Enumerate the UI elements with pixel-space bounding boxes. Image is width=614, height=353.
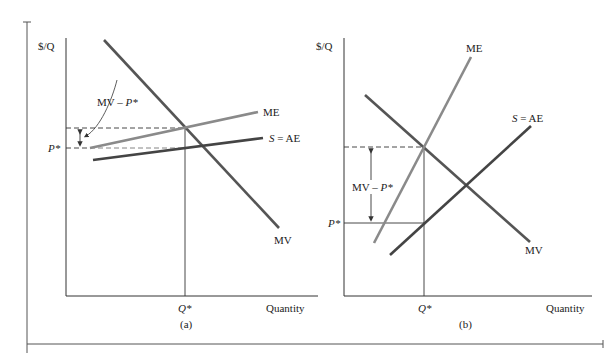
- panel-b-mv-curve: [365, 95, 530, 242]
- panel-a-me-label: ME: [263, 106, 280, 118]
- panel-b: $/Q MV – P* P* ME S = AE MV Q* Quantity …: [316, 38, 592, 331]
- panel-a-mv-label: MV: [274, 234, 292, 246]
- panel-a-s-ae-label: S = AE: [269, 132, 301, 144]
- panel-b-q-star-label: Q*: [418, 302, 432, 314]
- panel-b-x-axis-label: Quantity: [546, 302, 585, 314]
- panel-b-me-label: ME: [466, 42, 483, 54]
- panel-a-p-star-label: P*: [47, 142, 61, 154]
- panel-b-me-curve: [374, 57, 471, 243]
- panel-b-gap-label: MV – P*: [352, 181, 393, 193]
- panel-b-p-star-label: P*: [327, 217, 341, 229]
- panel-b-s-ae-curve: [390, 126, 531, 255]
- panel-b-s-ae-label: S = AE: [512, 112, 544, 124]
- panel-b-mv-label: MV: [525, 244, 543, 256]
- panel-b-caption: (b): [459, 318, 472, 331]
- panel-a: $/Q MV – P* P* ME S = AE MV Q* Quantity …: [38, 38, 318, 331]
- panel-a-mv-curve: [104, 40, 279, 228]
- panel-a-x-axis-label: Quantity: [266, 302, 305, 314]
- panel-a-q-star-label: Q*: [178, 302, 192, 314]
- panel-a-caption: (a): [180, 318, 193, 331]
- figure-frame: [23, 22, 603, 353]
- panel-b-y-axis-label: $/Q: [316, 40, 333, 52]
- panel-a-y-axis-label: $/Q: [38, 40, 55, 52]
- panel-a-gap-label: MV – P*: [97, 96, 138, 108]
- monopsony-diagram: $/Q MV – P* P* ME S = AE MV Q* Quantity …: [0, 0, 614, 353]
